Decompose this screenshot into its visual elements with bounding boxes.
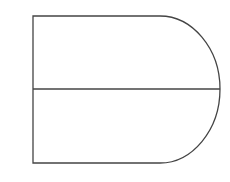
diagram-canvas	[0, 0, 230, 182]
